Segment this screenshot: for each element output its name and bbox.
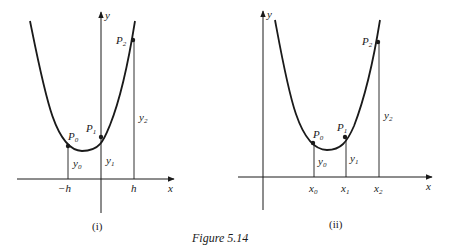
label-y2: y2 — [138, 111, 148, 125]
panel-label-ii: (ii) — [329, 218, 343, 231]
point-p2 — [131, 38, 135, 42]
label-y2: y2 — [383, 109, 393, 123]
point-p2 — [376, 40, 380, 44]
label-y0: y0 — [317, 155, 327, 169]
label-y0: y0 — [72, 157, 82, 171]
point-p0 — [66, 144, 70, 148]
figure-canvas: y x −h h P0 P1 P2 y0 y1 y2 (i) y x x0 x1… — [0, 0, 453, 248]
label-p1: P1 — [85, 122, 96, 136]
label-p1: P1 — [336, 121, 347, 135]
label-y1: y1 — [349, 152, 358, 166]
label-p0: P0 — [67, 130, 79, 144]
point-p1 — [99, 135, 103, 139]
panel-i: y x −h h P0 P1 P2 y0 y1 y2 (i) — [17, 9, 174, 233]
y-axis-label: y — [266, 8, 272, 20]
tick-minus-h: −h — [58, 182, 71, 194]
x-axis-label: x — [425, 180, 431, 192]
y-axis-label: y — [104, 9, 110, 21]
label-p0: P0 — [312, 128, 324, 142]
label-p2: P2 — [115, 34, 127, 48]
tick-x2: x2 — [373, 182, 383, 196]
figure-caption: Figure 5.14 — [191, 231, 248, 245]
label-p2: P2 — [361, 35, 373, 49]
point-p1 — [343, 135, 347, 139]
panel-ii: y x x0 x1 x2 P0 P1 P2 y0 y1 y2 (ii) — [238, 8, 432, 231]
panel-label-i: (i) — [92, 220, 103, 233]
x-axis-label: x — [167, 182, 173, 194]
tick-x1: x1 — [340, 182, 349, 196]
point-p0 — [311, 141, 315, 145]
label-y1: y1 — [105, 154, 114, 168]
tick-x0: x0 — [308, 182, 318, 196]
tick-h: h — [131, 182, 137, 194]
